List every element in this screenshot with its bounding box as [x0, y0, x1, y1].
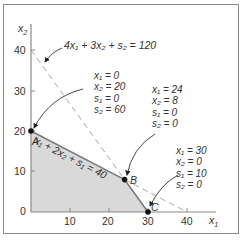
- plot-area: [0, 0, 243, 240]
- vertex-a-point: [28, 128, 34, 134]
- vertex-c-values: x₁ = 30 x₂ = 0 s₁ = 10 s₂ = 0: [176, 145, 207, 190]
- y-tick-10: 10: [14, 165, 26, 177]
- y-tick-20: 20: [14, 125, 26, 137]
- y-tick-0: 0: [20, 205, 26, 217]
- x-tick-20: 20: [102, 215, 114, 227]
- x-tick-30: 30: [142, 215, 154, 227]
- vertex-b-values: x₁ = 24 x₂ = 8 s₁ = 0 s₂ = 0: [152, 84, 183, 129]
- vertex-b-label: B: [130, 174, 137, 186]
- vertex-c-label: C: [151, 201, 159, 213]
- equation-constraint-2: 4x₁ + 3x₂ + s₂ = 120: [64, 39, 156, 51]
- y-tick-40: 40: [14, 44, 26, 56]
- x-tick-40: 40: [181, 215, 193, 227]
- vertex-a-values: x₁ = 0 x₂ = 20 s₁ = 0 s₂ = 60: [94, 70, 125, 115]
- vertex-c-point: [145, 209, 151, 215]
- x-axis-label: x1: [209, 214, 218, 231]
- y-axis-label: x2: [18, 22, 27, 39]
- arrow-eq2: [45, 48, 62, 62]
- y-tick-30: 30: [14, 85, 26, 97]
- x-tick-10: 10: [64, 215, 76, 227]
- arrow-vertex-a: [34, 89, 83, 128]
- vertex-a-label: A: [32, 135, 39, 147]
- arrow-vertex-b: [127, 134, 155, 175]
- vertex-b-point: [122, 177, 128, 183]
